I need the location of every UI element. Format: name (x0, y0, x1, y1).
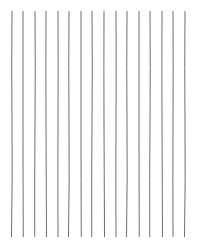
vertical-line (185, 11, 186, 237)
vertical-line (46, 11, 47, 237)
vertical-line (69, 11, 70, 237)
vertical-line (150, 11, 151, 237)
vertical-line (35, 11, 36, 237)
vertical-lines-drawing (0, 0, 201, 249)
vertical-line (92, 11, 93, 237)
vertical-line (127, 11, 128, 237)
vertical-line (162, 11, 163, 237)
vertical-line (104, 11, 105, 237)
vertical-line (12, 11, 13, 237)
